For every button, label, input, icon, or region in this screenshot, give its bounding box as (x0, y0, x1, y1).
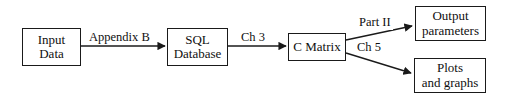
node-input-data-line-2: Data (39, 47, 64, 61)
edge-label-ch-3: Ch 3 (239, 30, 267, 45)
node-input-data[interactable]: Input Data (22, 28, 81, 66)
node-sql-database[interactable]: SQL Database (167, 28, 228, 66)
node-plots-and-graphs-line-2: and graphs (422, 76, 479, 90)
node-c-matrix-line-1: C Matrix (293, 40, 340, 54)
node-sql-database-line-2: Database (174, 47, 222, 61)
node-output-parameters-line-1: Output (432, 9, 468, 23)
node-plots-and-graphs[interactable]: Plots and graphs (414, 58, 486, 93)
edge-label-part-ii: Part II (357, 15, 393, 30)
flowchart-canvas: Input Data SQL Database C Matrix Output … (0, 0, 506, 100)
node-plots-and-graphs-line-1: Plots (437, 61, 463, 75)
edge-cmatrix-to-plots (346, 53, 411, 73)
edge-label-appendix-b: Appendix B (87, 30, 152, 45)
edge-label-ch-5: Ch 5 (355, 40, 383, 55)
node-sql-database-line-1: SQL (185, 33, 210, 47)
node-c-matrix[interactable]: C Matrix (288, 33, 346, 61)
node-input-data-line-1: Input (38, 33, 65, 47)
node-output-parameters-line-2: parameters (422, 24, 479, 38)
node-output-parameters[interactable]: Output parameters (415, 6, 486, 41)
